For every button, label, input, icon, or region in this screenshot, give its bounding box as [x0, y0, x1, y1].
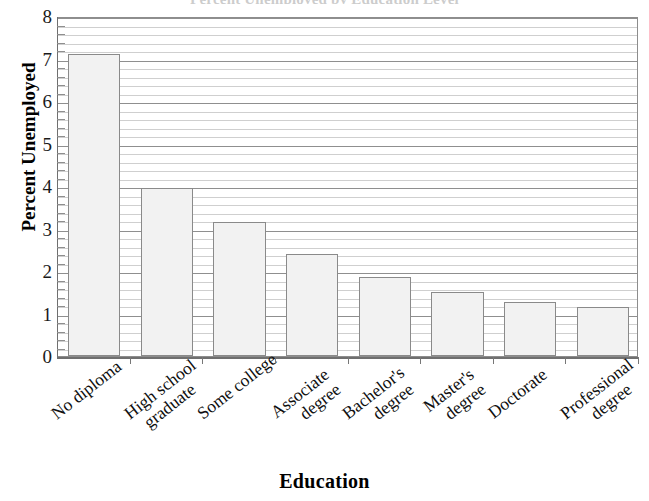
- y-minor-tick: [57, 43, 65, 44]
- y-minor-tick: [57, 136, 65, 137]
- y-minor-tick: [57, 170, 65, 171]
- plot-area: [57, 17, 638, 357]
- x-tick: [348, 357, 349, 364]
- y-tick-label: 8: [24, 7, 52, 26]
- x-axis-title: Education: [0, 470, 649, 493]
- y-minor-tick: [57, 111, 65, 112]
- x-tick: [202, 357, 203, 364]
- y-minor-tick: [57, 85, 65, 86]
- y-tick-label: 2: [24, 262, 52, 281]
- y-minor-tick: [57, 128, 65, 129]
- y-minor-tick: [57, 349, 65, 350]
- y-tick-label: 5: [24, 135, 52, 154]
- y-minor-tick: [57, 340, 65, 341]
- x-tick: [420, 357, 421, 364]
- y-minor-tick: [57, 77, 65, 78]
- bar: [213, 222, 265, 356]
- x-tick: [565, 357, 566, 364]
- y-tick-label: 3: [24, 220, 52, 239]
- x-tick-label: High schoolgraduate: [121, 365, 200, 438]
- y-minor-tick: [57, 247, 65, 248]
- y-minor-tick: [57, 323, 65, 324]
- y-minor-tick: [57, 298, 65, 299]
- y-minor-tick: [57, 196, 65, 197]
- y-minor-tick: [57, 306, 65, 307]
- y-minor-tick: [57, 221, 65, 222]
- y-tick-label: 1: [24, 305, 52, 324]
- x-tick-label: Some college: [193, 365, 260, 423]
- bar: [68, 54, 120, 356]
- y-tick-label: 6: [24, 92, 52, 111]
- bar: [286, 254, 338, 356]
- bar: [359, 277, 411, 356]
- y-minor-tick: [57, 26, 65, 27]
- x-tick-label: Associatedegree: [266, 365, 345, 438]
- y-minor-tick: [57, 281, 65, 282]
- x-tick: [638, 357, 639, 364]
- x-tick-label: Professionaldegree: [557, 365, 636, 438]
- y-minor-tick: [57, 289, 65, 290]
- y-minor-tick: [57, 238, 65, 239]
- y-minor-tick: [57, 68, 65, 69]
- x-tick: [275, 357, 276, 364]
- bar: [577, 307, 629, 356]
- y-minor-tick: [57, 264, 65, 265]
- y-minor-tick: [57, 119, 65, 120]
- bar-chart: Percent Unemployed by Education Level Pe…: [0, 0, 649, 501]
- bar: [141, 188, 193, 356]
- x-tick-label: No diploma: [48, 365, 115, 423]
- y-minor-tick: [57, 332, 65, 333]
- x-axis-tick-labels: No diplomaHigh schoolgraduateSome colleg…: [0, 357, 649, 467]
- y-minor-tick: [57, 179, 65, 180]
- chart-title-clipped: Percent Unemployed by Education Level: [0, 0, 649, 4]
- x-tick-label: Doctorate: [484, 365, 551, 423]
- x-tick-label: Master'sdegree: [411, 365, 490, 438]
- y-minor-tick: [57, 255, 65, 256]
- y-minor-tick: [57, 204, 65, 205]
- y-tick-label: 7: [24, 50, 52, 69]
- y-minor-tick: [57, 34, 65, 35]
- x-tick: [493, 357, 494, 364]
- y-minor-tick: [57, 213, 65, 214]
- x-tick-label: Bachelor'sdegree: [339, 365, 418, 438]
- y-minor-tick: [57, 162, 65, 163]
- y-minor-tick: [57, 94, 65, 95]
- x-tick: [130, 357, 131, 364]
- y-tick-label: 4: [24, 177, 52, 196]
- bar: [431, 292, 483, 356]
- bar: [504, 302, 556, 356]
- y-minor-tick: [57, 153, 65, 154]
- bars-layer: [58, 18, 637, 356]
- y-minor-tick: [57, 51, 65, 52]
